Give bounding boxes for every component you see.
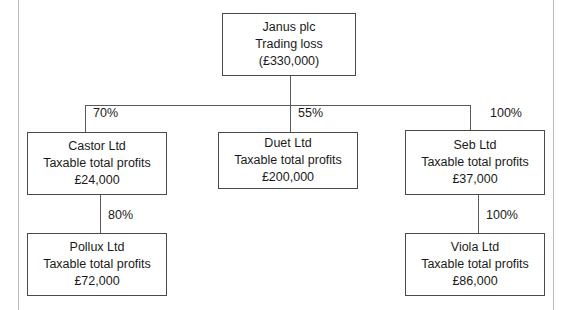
connector-seb-viola	[478, 195, 479, 233]
connector-castor-pollux	[100, 195, 101, 233]
connector-janus-duet	[290, 105, 291, 132]
node-seb-name: Seb Ltd	[453, 137, 496, 154]
connector-janus-castor	[85, 105, 86, 132]
node-pollux-ltd[interactable]: Pollux Ltd Taxable total profits £72,000	[27, 233, 167, 296]
node-duet-amount: £200,000	[262, 169, 314, 186]
node-duet-name: Duet Ltd	[264, 135, 311, 152]
edge-label-castor-pollux: 80%	[107, 208, 134, 222]
node-seb-amount: £37,000	[452, 171, 497, 188]
node-janus-name: Janus plc	[263, 19, 316, 36]
node-janus-plc[interactable]: Janus plc Trading loss (£330,000)	[222, 13, 356, 76]
node-janus-amount: (£330,000)	[259, 53, 319, 70]
edge-label-seb-viola: 100%	[485, 208, 519, 222]
edge-label-janus-duet: 55%	[297, 106, 324, 120]
node-duet-ltd[interactable]: Duet Ltd Taxable total profits £200,000	[218, 132, 358, 189]
node-pollux-caption: Taxable total profits	[43, 256, 151, 273]
node-castor-ltd[interactable]: Castor Ltd Taxable total profits £24,000	[27, 132, 167, 195]
diagram-canvas: 70% 55% 100% 80% 100% Janus plc Trading …	[0, 0, 566, 310]
connector-janus-seb	[470, 105, 471, 130]
page-margin-rule-right	[553, 0, 554, 310]
node-castor-amount: £24,000	[74, 172, 119, 189]
edge-label-janus-castor: 70%	[92, 106, 119, 120]
node-seb-ltd[interactable]: Seb Ltd Taxable total profits £37,000	[405, 130, 545, 195]
node-duet-caption: Taxable total profits	[234, 152, 342, 169]
node-viola-amount: £86,000	[452, 273, 497, 290]
node-castor-caption: Taxable total profits	[43, 155, 151, 172]
edge-label-janus-seb: 100%	[489, 106, 523, 120]
node-viola-caption: Taxable total profits	[421, 256, 529, 273]
node-viola-ltd[interactable]: Viola Ltd Taxable total profits £86,000	[405, 233, 545, 296]
connector-horizontal-bus	[85, 105, 471, 106]
node-janus-caption: Trading loss	[255, 36, 323, 53]
page-margin-rule-left	[18, 0, 19, 310]
node-castor-name: Castor Ltd	[68, 138, 126, 155]
node-pollux-name: Pollux Ltd	[70, 239, 125, 256]
connector-janus-stem	[290, 76, 291, 105]
node-pollux-amount: £72,000	[74, 273, 119, 290]
node-seb-caption: Taxable total profits	[421, 154, 529, 171]
node-viola-name: Viola Ltd	[451, 239, 499, 256]
